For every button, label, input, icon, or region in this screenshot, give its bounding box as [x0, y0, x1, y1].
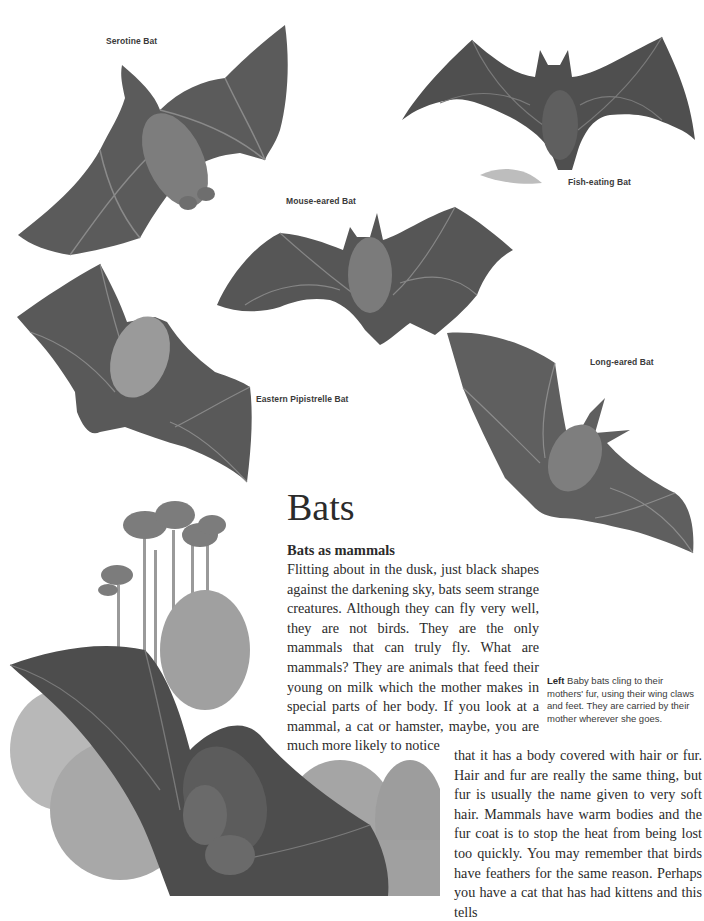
- mouse-eared-bat-label: Mouse-eared Bat: [286, 196, 356, 206]
- body-text-column-1: Flitting about in the dusk, just black s…: [287, 560, 539, 756]
- body-text-column-2: that it has a body covered with hair or …: [454, 746, 702, 921]
- fish-eating-bat-label: Fish-eating Bat: [568, 177, 631, 187]
- side-caption-text: Baby bats cling to their mothers' fur, u…: [547, 675, 694, 724]
- serotine-bat-label: Serotine Bat: [106, 36, 157, 46]
- eastern-pipistrelle-bat-illustration: [15, 262, 255, 487]
- long-eared-bat-illustration: [445, 328, 700, 556]
- long-eared-bat-label: Long-eared Bat: [590, 357, 654, 367]
- eastern-pipistrelle-bat-label: Eastern Pipistrelle Bat: [256, 394, 349, 404]
- side-caption: Left Baby bats cling to their mothers' f…: [547, 675, 697, 725]
- section-heading: Bats as mammals: [287, 542, 395, 559]
- fish-eating-bat-illustration: [400, 35, 700, 190]
- side-caption-lead: Left: [547, 675, 564, 686]
- page-title: Bats: [287, 488, 355, 526]
